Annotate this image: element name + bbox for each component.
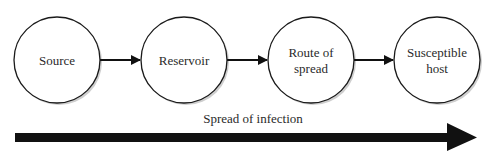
node-route-label-line1: Route of — [288, 45, 334, 60]
caption-spread-of-infection: Spread of infection — [203, 111, 303, 126]
node-reservoir: Reservoir — [141, 17, 227, 103]
node-source: Source — [14, 17, 100, 103]
node-host-label-line1: Susceptible — [407, 45, 467, 60]
node-reservoir-label: Reservoir — [159, 53, 210, 68]
node-host-label-line2: host — [426, 61, 448, 76]
node-route-label-line2: spread — [294, 61, 328, 76]
spread-direction-arrow — [15, 123, 477, 151]
infection-chain-diagram: Source Reservoir Route of spread Suscept… — [0, 0, 497, 155]
node-route-of-spread: Route of spread — [268, 17, 354, 103]
node-source-label: Source — [39, 53, 75, 68]
node-susceptible-host: Susceptible host — [394, 17, 480, 103]
